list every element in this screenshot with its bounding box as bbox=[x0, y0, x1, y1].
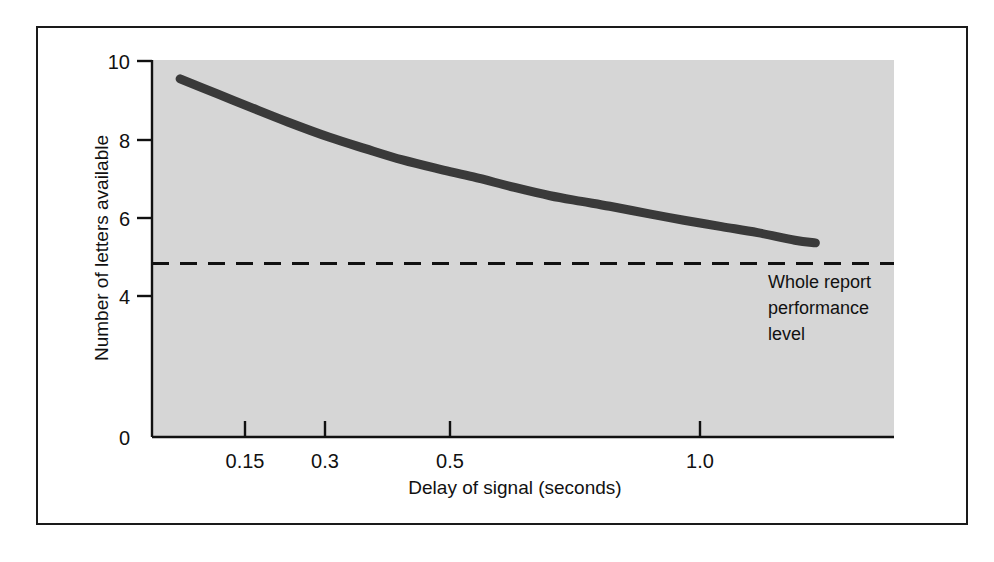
x-tick-label-05: 0.5 bbox=[436, 450, 464, 472]
y-tick-label-6: 6 bbox=[119, 208, 130, 230]
y-tick-label-0: 0 bbox=[119, 427, 130, 449]
y-tick-label-8: 8 bbox=[119, 130, 130, 152]
x-tick-label-10: 1.0 bbox=[686, 450, 714, 472]
annotation-line-2: performance bbox=[768, 298, 869, 318]
annotation-line-3: level bbox=[768, 324, 805, 344]
x-tick-label-03: 0.3 bbox=[311, 450, 339, 472]
y-axis-ticks bbox=[137, 61, 152, 296]
chart-canvas: 10 8 6 4 0 0.15 0.3 0.5 1.0 Delay of sig… bbox=[0, 0, 994, 562]
y-tick-label-4: 4 bbox=[119, 286, 130, 308]
figure-container: 10 8 6 4 0 0.15 0.3 0.5 1.0 Delay of sig… bbox=[0, 0, 994, 562]
x-axis-title: Delay of signal (seconds) bbox=[408, 477, 621, 498]
annotation-line-1: Whole report bbox=[768, 272, 871, 292]
y-axis-title: Number of letters available bbox=[91, 135, 112, 361]
x-tick-label-015: 0.15 bbox=[226, 450, 265, 472]
y-tick-label-10: 10 bbox=[108, 51, 130, 73]
